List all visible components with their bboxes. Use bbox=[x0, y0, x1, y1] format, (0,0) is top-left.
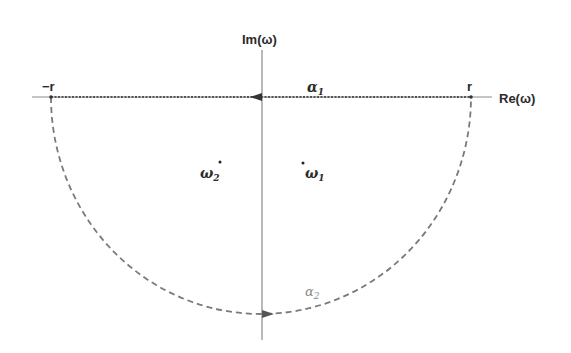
alpha1-label: α1 bbox=[307, 79, 324, 97]
omega1-label: ω1 bbox=[305, 165, 325, 183]
imag-axis-label: Im(ω) bbox=[242, 32, 277, 47]
neg-r-label: −r bbox=[42, 79, 55, 94]
contour-alpha2 bbox=[51, 97, 471, 314]
point-neg-r bbox=[49, 95, 53, 99]
point-r bbox=[469, 95, 473, 99]
contour-diagram: Im(ω) Re(ω) −r r α1 α2 ω2 ω1 bbox=[0, 0, 571, 353]
pole-omega2-dot bbox=[219, 161, 222, 164]
r-label: r bbox=[467, 79, 472, 94]
omega2-label: ω2 bbox=[200, 165, 220, 183]
arrow-right-icon bbox=[262, 310, 274, 318]
arrow-left-icon bbox=[250, 93, 262, 101]
real-axis-label: Re(ω) bbox=[499, 91, 535, 106]
alpha2-label: α2 bbox=[305, 284, 320, 301]
